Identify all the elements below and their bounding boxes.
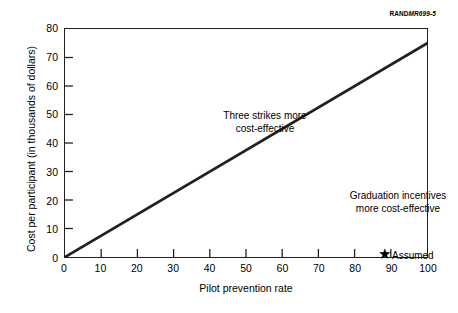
annotation-graduation-incentives-line2: more cost-effective [298, 202, 458, 215]
x-tick-70: 70 [313, 262, 325, 274]
break-even-line [65, 43, 427, 257]
x-tick-40: 40 [204, 262, 216, 274]
x-tick-80: 80 [349, 262, 361, 274]
figure-container: RANDMR699-5 80 70 60 50 40 30 20 10 0 0 … [0, 0, 458, 313]
y-axis-title: Cost per participant (in thousands of do… [25, 34, 37, 264]
annotation-graduation-incentives: Graduation incentives more cost-effectiv… [298, 189, 458, 215]
x-tick-20: 20 [131, 262, 143, 274]
x-tick-60: 60 [277, 262, 289, 274]
plot-area: Three strikes more cost-effective Gradua… [64, 28, 428, 258]
x-tick-50: 50 [240, 262, 252, 274]
annotation-three-strikes-line2: cost-effective [165, 122, 365, 135]
x-tick-0: 0 [61, 262, 67, 274]
x-axis-title: Pilot prevention rate [64, 282, 428, 294]
star-icon: ★ [378, 247, 391, 260]
assumed-label: Assumed [392, 247, 434, 264]
plot-svg [65, 29, 427, 257]
x-tick-30: 30 [167, 262, 179, 274]
y-tick-marks [65, 58, 73, 229]
x-tick-marks [101, 249, 391, 257]
annotation-three-strikes: Three strikes more cost-effective [165, 109, 365, 135]
x-tick-10: 10 [95, 262, 107, 274]
assumed-data-point: ★ Assumed [378, 247, 434, 264]
annotation-three-strikes-line1: Three strikes more [165, 109, 365, 122]
annotation-graduation-incentives-line1: Graduation incentives [298, 189, 458, 202]
